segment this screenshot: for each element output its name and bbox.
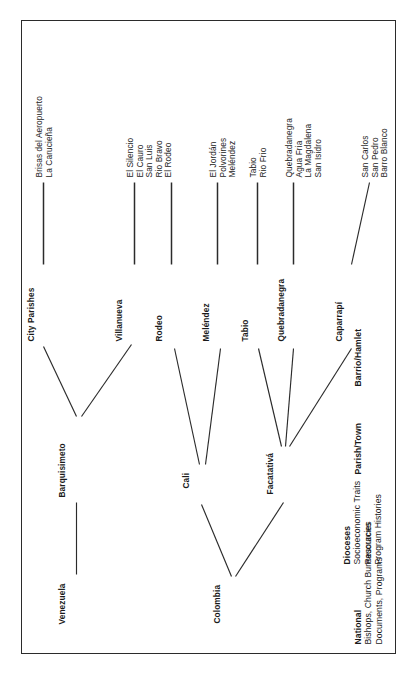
edge-facatativa-caparrapi [289,348,351,446]
diagram-frame: Venezuela Colombia Barquisimeto Cali Fac… [21,20,396,654]
list-item: Barro Blanco [379,128,389,177]
edge-facatativa-quebradanegra [285,348,293,446]
row-label-dioceses: Dioceses Socioeconomic Traits Resources … [341,480,383,564]
hamlet-group-caparrapi: San Carlos San Pedro Barro Blanco [360,128,389,177]
list-item: Rio Frio [258,147,268,177]
node-rodeo[interactable]: Rodeo [154,315,164,341]
diagram-page: Venezuela Colombia Barquisimeto Cali Fac… [0,0,417,678]
node-venezuela[interactable]: Venezuela [57,583,67,624]
list-item: El Silencio [125,137,135,177]
list-item: Quebradanegra [284,118,294,177]
node-villanueva[interactable]: Villanueva [114,299,124,341]
node-caparrapi[interactable]: Caparrapí [334,301,344,341]
row-label-dioceses-sub-2: Resources [362,480,372,564]
edge-facatativa-tabio [258,348,281,446]
node-city-parishes[interactable]: City Parishes [26,287,36,341]
hamlet-group-villanueva: El Silencio El Cauro San Luis Rio Bravo [125,137,163,177]
node-facatativa[interactable]: Facatativá [265,452,275,494]
node-tabio[interactable]: Tabio [240,319,250,341]
edge-cali-rodeo [174,348,199,464]
edge-barquisimeto-city-parishes [43,346,76,416]
hamlet-group-melendez: El Jordán Polvorines Meléndez [208,137,237,177]
node-barquisimeto[interactable]: Barquisimeto [57,443,67,497]
row-label-dioceses-sub-1: Socioeconomic Traits [351,480,361,564]
edge-colombia-facatativa [235,502,283,576]
list-item: El Jordán [208,137,218,177]
hamlet-group-city-parishes: Brisas del Aeropuerto La Carucieña [34,96,53,177]
list-item: Brisas del Aeropuerto [34,96,44,177]
list-item: Tabio [248,147,258,177]
edge-barquisimeto-villanueva [81,344,131,416]
list-item: San Carlos [360,128,370,177]
rotated-canvas: Venezuela Colombia Barquisimeto Cali Fac… [21,20,396,654]
list-item: La Magdalena [303,118,313,177]
node-quebradanegra[interactable]: Quebradanegra [276,278,286,341]
node-colombia[interactable]: Colombia [212,584,222,623]
row-label-barrio-hamlet-heading: Barrio/Hamlet [352,328,362,386]
row-label-parish-town: Parish/Town [352,422,362,474]
hamlet-group-quebradanegra: Quebradanegra Agua Fria La Magdalena San… [284,118,322,177]
row-label-parish-town-heading: Parish/Town [352,422,362,474]
hamlet-group-rodeo: El Rodeo [163,142,173,177]
edge-cali-melendez [205,348,220,464]
list-item: San Isidro [313,118,323,177]
hamlet-group-tabio: Tabio Rio Frio [248,147,267,177]
edge-caparrapi-hamlets [351,182,369,264]
list-item: El Rodeo [163,142,173,177]
edge-colombia-cali [201,504,231,576]
list-item: San Luis [144,137,154,177]
list-item: Meléndez [227,137,237,177]
list-item: La Carucieña [44,96,54,177]
row-label-barrio-hamlet: Barrio/Hamlet [352,328,362,386]
node-melendez[interactable]: Meléndez [201,303,211,341]
node-cali[interactable]: Cali [181,472,191,488]
row-label-dioceses-heading: Dioceses [341,480,351,564]
row-label-dioceses-sub-3: Program Histories [372,480,382,564]
